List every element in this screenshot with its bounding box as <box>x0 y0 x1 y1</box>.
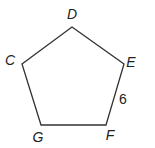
vertex-label-f: F <box>106 127 116 143</box>
vertex-label-c: C <box>5 52 16 68</box>
vertex-label-e: E <box>126 54 136 70</box>
vertex-label-d: D <box>67 6 77 22</box>
pentagon-diagram: D E F G C 6 <box>0 0 155 148</box>
pentagon-shape <box>22 27 124 125</box>
side-length-label: 6 <box>119 91 127 107</box>
vertex-label-g: G <box>33 129 44 145</box>
